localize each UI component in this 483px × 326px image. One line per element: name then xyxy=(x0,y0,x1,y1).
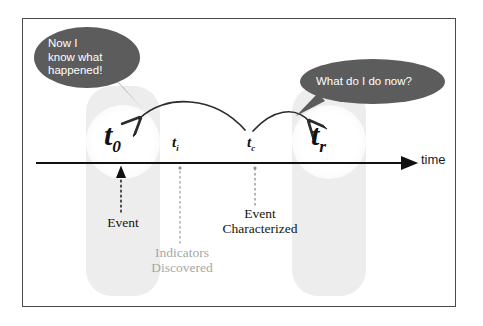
arc-to-tr xyxy=(253,112,310,131)
time-marker-ti: ti xyxy=(172,134,179,153)
dot-ti xyxy=(178,166,181,169)
tc-subscript: c xyxy=(251,143,255,153)
time-marker-t0: t0 xyxy=(104,118,121,157)
speech-bubble-right-text: What do I do now? xyxy=(316,75,412,88)
speech-bubble-left-text: Now I know what happened! xyxy=(48,37,102,78)
t0-subscript: 0 xyxy=(112,136,121,156)
time-marker-tr: tr xyxy=(311,118,326,157)
arc-to-t0 xyxy=(139,102,245,130)
caption-event: Event xyxy=(83,215,163,230)
speech-bubble-what-do-i-do: What do I do now? xyxy=(300,59,445,104)
speech-bubble-now-i-know: Now I know what happened! xyxy=(34,27,140,88)
tr-subscript: r xyxy=(319,136,326,156)
caption-event-characterized: Event Characterized xyxy=(211,206,309,236)
axis-label-time: time xyxy=(421,152,446,167)
dot-tc xyxy=(253,166,256,169)
caption-indicators-discovered: Indicators Discovered xyxy=(136,245,228,275)
figure-root: Now I know what happened! What do I do n… xyxy=(0,0,483,326)
time-marker-tc: tc xyxy=(247,134,255,153)
ti-subscript: i xyxy=(176,143,178,153)
